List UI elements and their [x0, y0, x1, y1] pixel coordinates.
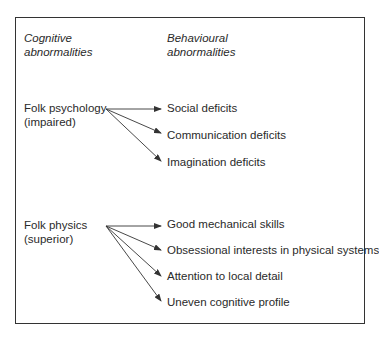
arrow-icon	[106, 109, 161, 133]
arrow-icon	[106, 226, 161, 301]
arrow-icon	[106, 226, 161, 276]
arrow-icon	[106, 109, 161, 161]
